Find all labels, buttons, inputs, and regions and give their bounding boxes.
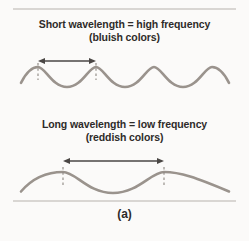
- short-wavelength-line-1: Short wavelength = high frequency: [0, 18, 249, 31]
- long-wavelength-wave-graphic: [0, 152, 249, 200]
- long-wavelength-line-2: (reddish colors): [0, 131, 249, 144]
- figure-caption: (a): [0, 207, 249, 221]
- long-wavelength-label: Long wavelength = low frequency (reddish…: [0, 118, 249, 143]
- long-wavelength-line-1: Long wavelength = low frequency: [0, 118, 249, 131]
- wavelength-figure: Short wavelength = high frequency (bluis…: [0, 0, 249, 241]
- long-wavelength-measure-arrow: [63, 158, 164, 164]
- long-wavelength-wave-svg: [0, 152, 249, 200]
- top-divider-rule: [13, 8, 236, 10]
- short-wavelength-measure-arrow: [38, 58, 96, 64]
- short-wavelength-wave-graphic: [0, 55, 249, 100]
- long-wave-path: [21, 172, 229, 193]
- short-wave-path: [21, 67, 229, 87]
- bottom-divider-rule: [13, 200, 236, 202]
- short-wavelength-wave-svg: [0, 55, 249, 100]
- short-wavelength-line-2: (bluish colors): [0, 31, 249, 44]
- short-wavelength-label: Short wavelength = high frequency (bluis…: [0, 18, 249, 43]
